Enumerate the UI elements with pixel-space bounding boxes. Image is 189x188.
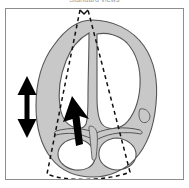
septum-lower-detail (89, 126, 97, 160)
heart-diagram (0, 0, 189, 188)
scan-cone-apex-tick (80, 10, 88, 14)
motion-arrow (18, 76, 37, 138)
figure-root: Standard views (0, 0, 189, 188)
